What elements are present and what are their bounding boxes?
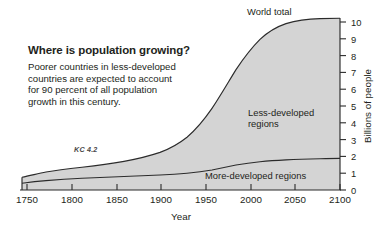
x-tick-label-2100: 2100	[320, 194, 360, 205]
figure-root: Where is population growing? Poorer coun…	[0, 0, 391, 231]
y-tick-label-8: 8	[351, 50, 365, 61]
x-tick-label-2000: 2000	[231, 194, 271, 205]
annotation-less-developed-line-1: Less-developed	[248, 107, 314, 118]
callout-body-line-1: Poorer countries in less-developed	[28, 61, 200, 73]
callout-title: Where is population growing?	[28, 44, 200, 57]
x-tick-label-1850: 1850	[97, 194, 137, 205]
callout-text-block: Where is population growing? Poorer coun…	[28, 44, 200, 107]
y-tick-label-2: 2	[351, 151, 365, 162]
callout-body-line-3: for 90 percent of all population	[28, 84, 200, 96]
x-tick-label-1950: 1950	[186, 194, 226, 205]
annotation-more-developed-regions: More-developed regions	[205, 171, 306, 182]
y-tick-label-1: 1	[351, 168, 365, 179]
annotation-less-developed-regions: Less-developed regions	[248, 108, 314, 129]
x-tick-label-1900: 1900	[141, 194, 181, 205]
figure-number-label: KC 4.2	[74, 145, 98, 154]
annotation-less-developed-line-2: regions	[248, 118, 279, 129]
y-tick-label-10: 10	[351, 17, 365, 28]
x-axis-title: Year	[171, 211, 191, 222]
annotation-world-total: World total	[247, 7, 292, 18]
x-tick-label-1750: 1750	[7, 194, 47, 205]
y-tick-marks	[340, 22, 346, 190]
x-tick-label-1800: 1800	[52, 194, 92, 205]
y-axis-title: Billions of people	[362, 69, 373, 143]
x-tick-label-2050: 2050	[275, 194, 315, 205]
y-tick-label-9: 9	[351, 33, 365, 44]
callout-body: Poorer countries in less-developed count…	[28, 61, 200, 107]
callout-body-line-2: countries are expected to account	[28, 73, 200, 85]
callout-body-line-4: growth in this century.	[28, 96, 200, 108]
